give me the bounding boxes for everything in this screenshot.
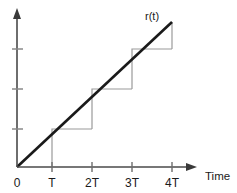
x-tick-label-0: 0 [14,176,21,190]
x-tick-label-4T: 4T [165,176,180,190]
x-tick-label-2T: 2T [85,176,100,190]
y-axis-arrow-icon [13,8,21,19]
stair-step-2 [92,89,132,129]
x-axis-arrow-icon [186,163,197,171]
ramp-line [17,22,172,167]
ramp-quantizer-figure: 0 T 2T 3T 4T Time r(t) [0,0,237,193]
figure-canvas: 0 T 2T 3T 4T Time r(t) [0,0,237,193]
stair-step-1 [52,129,92,167]
curve-label-rt: r(t) [145,10,159,22]
x-axis-label: Time [205,170,230,182]
x-axis-tick-labels: 0 T 2T 3T 4T [14,176,180,190]
x-tick-label-3T: 3T [125,176,140,190]
x-tick-label-T: T [48,176,56,190]
staircase-series [52,22,172,167]
